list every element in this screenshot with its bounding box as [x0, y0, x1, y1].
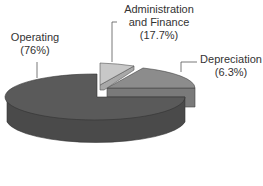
- depreciation-leader-line: [181, 62, 197, 72]
- operating-label-value: (76%): [5, 44, 65, 57]
- admin-label-name-1: Administration: [116, 3, 202, 16]
- operating-label-name: Operating: [5, 31, 65, 44]
- admin-label-name-2: and Finance: [116, 16, 202, 29]
- depreciation-label: Depreciation (6.3%): [198, 53, 263, 79]
- operating-label: Operating (76%): [5, 31, 65, 57]
- admin-label-value: (17.7%): [116, 29, 202, 42]
- depreciation-label-name: Depreciation: [198, 53, 263, 66]
- admin-label: Administration and Finance (17.7%): [116, 3, 202, 42]
- depreciation-label-value: (6.3%): [198, 66, 263, 79]
